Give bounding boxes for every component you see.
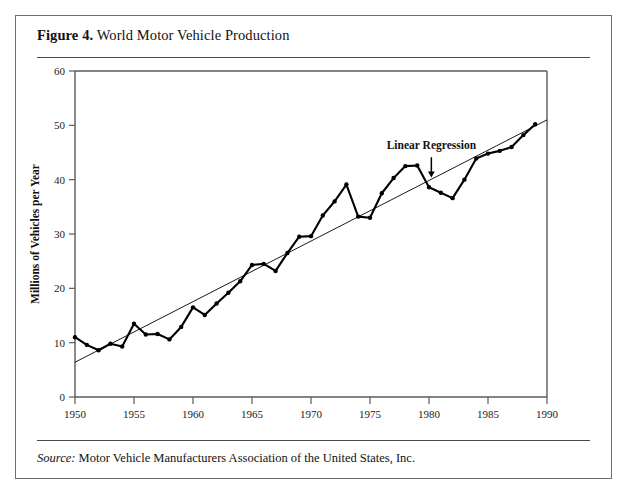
svg-text:1955: 1955 [123,408,146,420]
figure-title: Figure 4. World Motor Vehicle Production [37,27,290,44]
svg-text:Millions of Vehicles per Year: Millions of Vehicles per Year [29,164,42,304]
svg-text:1980: 1980 [418,408,441,420]
chart-plot-area: 0102030405060 19501955196019651970197519… [16,60,613,433]
figure-number: Figure 4. [37,27,93,43]
y-axis: 0102030405060 [54,65,75,403]
title-divider [37,57,590,58]
production-data-line [75,124,535,350]
svg-text:1975: 1975 [359,408,382,420]
world-vehicle-production-chart: 0102030405060 19501955196019651970197519… [16,60,613,433]
svg-text:Linear Regression: Linear Regression [387,139,477,152]
svg-text:1960: 1960 [182,408,205,420]
figure-card: Figure 4. World Motor Vehicle Production… [15,15,612,479]
svg-text:1965: 1965 [241,408,264,420]
svg-text:1985: 1985 [477,408,500,420]
source-text: Motor Vehicle Manufacturers Association … [75,451,415,465]
svg-text:1950: 1950 [64,408,87,420]
linear-regression-line [75,120,547,362]
figure-header: Figure 4. World Motor Vehicle Production [16,16,611,60]
svg-text:1990: 1990 [536,408,559,420]
svg-text:50: 50 [54,119,66,131]
source-divider [37,440,590,441]
x-axis: 195019551960196519701975198019851990 [64,397,559,420]
svg-text:30: 30 [54,228,66,240]
source-label: Source: [37,451,75,465]
svg-text:10: 10 [54,337,66,349]
svg-text:1970: 1970 [300,408,323,420]
svg-text:40: 40 [54,174,66,186]
figure-source: Source: Motor Vehicle Manufacturers Asso… [37,451,415,466]
figure-title-text: World Motor Vehicle Production [93,27,289,43]
svg-text:20: 20 [54,282,66,294]
svg-text:0: 0 [60,391,66,403]
y-axis-title: Millions of Vehicles per Year [29,164,42,304]
svg-text:60: 60 [54,65,66,77]
